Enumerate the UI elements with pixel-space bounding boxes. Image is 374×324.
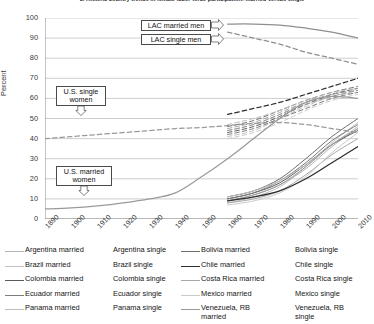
legend-label: Bolivia single xyxy=(295,246,338,255)
legend-label: Venezuela, RB single xyxy=(295,304,360,321)
series-line xyxy=(228,24,358,38)
callout-us-married-women: U.S. married women xyxy=(56,166,112,186)
legend-item[interactable]: Costa Rica single xyxy=(274,275,360,290)
y-tick-label: 30 xyxy=(14,155,38,162)
callout-us-single-women: U.S. single women xyxy=(56,86,106,106)
legend-swatch-icon xyxy=(92,262,113,271)
legend-item[interactable]: Chile married xyxy=(180,261,274,276)
legend-item[interactable]: Mexico single xyxy=(274,290,360,305)
legend-item[interactable]: Colombia married xyxy=(4,275,92,290)
legend-label: Brazil married xyxy=(25,261,71,270)
series-line xyxy=(228,88,358,124)
plot-area xyxy=(45,18,358,219)
legend-swatch-icon xyxy=(4,247,25,256)
legend-label: Bolivia married xyxy=(201,246,250,255)
y-tick-label: 10 xyxy=(14,195,38,202)
legend-item[interactable]: Bolivia married xyxy=(180,246,274,261)
legend-label: Panama single xyxy=(113,304,162,313)
legend-swatch-icon xyxy=(274,305,295,314)
legend-item[interactable]: Venezuela, RB single xyxy=(274,304,360,319)
legend-item[interactable]: Chile single xyxy=(274,261,360,276)
legend-label: Panama married xyxy=(25,304,80,313)
legend-item[interactable]: Mexico married xyxy=(180,290,274,305)
legend-label: Colombia married xyxy=(25,275,83,284)
y-tick-label: 100 xyxy=(14,14,38,21)
callout-lac-single-men: LAC single men xyxy=(141,34,211,45)
legend-swatch-icon xyxy=(274,262,295,271)
legend-item[interactable]: Ecuador married xyxy=(4,290,92,305)
series-line xyxy=(228,125,358,199)
legend-label: Brazil single xyxy=(113,261,153,270)
legend-label: Argentina single xyxy=(113,246,166,255)
y-tick-label: 40 xyxy=(14,135,38,142)
legend-swatch-icon xyxy=(180,276,201,285)
x-tick-label: 2010 xyxy=(356,213,374,231)
legend-swatch-icon xyxy=(92,305,113,314)
legend-swatch-icon xyxy=(274,291,295,300)
legend-label: Chile married xyxy=(201,261,245,270)
legend-label: Costa Rica married xyxy=(201,275,264,284)
legend-swatch-icon xyxy=(4,291,25,300)
legend-label: Argentina married xyxy=(25,246,84,255)
legend-swatch-icon xyxy=(180,247,201,256)
legend-swatch-icon xyxy=(92,291,113,300)
y-tick-label: 20 xyxy=(14,175,38,182)
y-tick-label: 60 xyxy=(14,94,38,101)
legend-swatch-icon xyxy=(180,262,201,271)
legend-label: Mexico married xyxy=(201,290,252,299)
legend-label: Ecuador married xyxy=(25,290,80,299)
legend-item[interactable]: Panama married xyxy=(4,304,92,319)
legend-label: Costa Rica single xyxy=(295,275,353,284)
chart-title: 3. Historic country trends in female lab… xyxy=(24,0,360,2)
legend-item[interactable]: Costa Rica married xyxy=(180,275,274,290)
legend-swatch-icon xyxy=(4,305,25,314)
y-tick-label: 70 xyxy=(14,74,38,81)
series-line xyxy=(45,96,358,209)
y-axis-label: Percent xyxy=(0,71,8,96)
legend-swatch-icon xyxy=(274,276,295,285)
plot-svg xyxy=(45,18,358,219)
legend: Argentina marriedArgentina singleBolivia… xyxy=(4,246,362,322)
legend-swatch-icon xyxy=(274,247,295,256)
legend-item[interactable]: Argentina single xyxy=(92,246,180,261)
legend-label: Ecuador single xyxy=(113,290,162,299)
legend-swatch-icon xyxy=(92,276,113,285)
legend-item[interactable]: Venezuela, RB married xyxy=(180,304,274,319)
legend-label: Mexico single xyxy=(295,290,340,299)
series-line xyxy=(45,122,358,138)
series-line xyxy=(228,32,358,64)
callout-lac-married-men: LAC married men xyxy=(141,20,211,31)
legend-item[interactable]: Brazil married xyxy=(4,261,92,276)
series-line xyxy=(228,123,358,203)
series-line xyxy=(228,139,358,203)
legend-item[interactable]: Brazil single xyxy=(92,261,180,276)
legend-swatch-icon xyxy=(4,276,25,285)
legend-label: Colombia single xyxy=(113,275,166,284)
legend-label: Venezuela, RB married xyxy=(201,304,274,321)
legend-swatch-icon xyxy=(92,247,113,256)
legend-label: Chile single xyxy=(295,261,333,270)
y-tick-label: 90 xyxy=(14,34,38,41)
legend-swatch-icon xyxy=(180,291,201,300)
legend-swatch-icon xyxy=(180,305,201,314)
legend-item[interactable]: Colombia single xyxy=(92,275,180,290)
y-tick-label: 0 xyxy=(14,215,38,222)
y-tick-label: 80 xyxy=(14,54,38,61)
legend-item[interactable]: Argentina married xyxy=(4,246,92,261)
y-tick-label: 50 xyxy=(14,115,38,122)
legend-item[interactable]: Bolivia single xyxy=(274,246,360,261)
legend-swatch-icon xyxy=(4,262,25,271)
series-line xyxy=(228,86,358,126)
legend-item[interactable]: Panama single xyxy=(92,304,180,319)
legend-item[interactable]: Ecuador single xyxy=(92,290,180,305)
